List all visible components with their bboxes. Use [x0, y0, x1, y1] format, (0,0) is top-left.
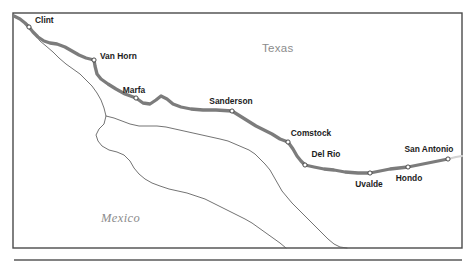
city-marker-icon[interactable] — [406, 165, 410, 169]
city-marker-icon[interactable] — [446, 157, 450, 161]
city-label: Uvalde — [355, 179, 383, 189]
city-label: Hondo — [396, 173, 423, 183]
city-label: San Antonio — [404, 144, 453, 154]
city-label: Sanderson — [209, 96, 252, 106]
city-marker-icon[interactable] — [368, 171, 372, 175]
city-marker-icon[interactable] — [286, 140, 290, 144]
city-marker-icon[interactable] — [92, 58, 96, 62]
city-marker-icon[interactable] — [27, 25, 31, 29]
city-marker-icon[interactable] — [134, 96, 138, 100]
city-label: Marfa — [123, 85, 146, 95]
region-label-mexico: Mexico — [100, 211, 140, 225]
city-label: Comstock — [291, 128, 332, 138]
map-canvas[interactable]: TexasMexico ClintVan HornMarfaSandersonC… — [0, 0, 476, 270]
city-label: Clint — [35, 15, 54, 25]
map-figure: TexasMexico ClintVan HornMarfaSandersonC… — [0, 0, 476, 270]
city-label: Del Rio — [312, 149, 341, 159]
city-label: Van Horn — [100, 51, 137, 61]
map-frame — [13, 13, 462, 248]
city-marker-icon[interactable] — [303, 163, 307, 167]
city-marker-icon[interactable] — [230, 109, 234, 113]
region-label-texas: Texas — [262, 42, 294, 54]
